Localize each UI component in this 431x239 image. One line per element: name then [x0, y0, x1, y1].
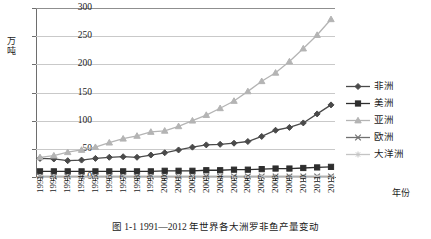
series-layer	[36, 8, 335, 178]
data-point-square	[79, 169, 84, 174]
legend-key-icon	[345, 78, 371, 95]
x-tick-label: 2000	[159, 182, 170, 193]
data-point-diamond	[176, 147, 182, 153]
legend-label: 欧洲	[374, 131, 394, 143]
data-point-square	[107, 169, 112, 174]
x-tick-2008: 2008	[270, 178, 281, 216]
data-point-diamond	[79, 157, 85, 163]
x-tick-2004: 2004	[215, 178, 226, 216]
x-tick-2003: 2003	[201, 178, 212, 216]
legend-item-大洋洲: 大洋洲	[345, 146, 431, 163]
x-tick-label: 2006	[242, 182, 253, 193]
data-point-triangle	[217, 105, 223, 111]
x-tick-1996: 1996	[104, 178, 115, 216]
x-tick-label: 1998	[132, 182, 143, 193]
data-point-square	[231, 167, 236, 172]
data-point-square	[315, 165, 320, 170]
legend-key-icon	[345, 129, 371, 146]
x-tick-label: 2002	[187, 182, 198, 193]
x-tick-1995: 1995	[90, 178, 101, 216]
x-tick-1999: 1999	[145, 178, 156, 216]
x-tick-label: 1992	[48, 182, 59, 193]
legend-label: 亚洲	[374, 114, 394, 126]
x-tick-1994: 1994	[76, 178, 87, 216]
data-point-square	[218, 168, 223, 173]
data-point-triangle	[328, 16, 334, 22]
data-point-diamond	[355, 84, 361, 90]
legend-key-icon	[345, 95, 371, 112]
x-tick-2011: 2011	[312, 178, 323, 216]
legend-item-美洲: 美洲	[345, 95, 431, 112]
data-point-star	[355, 152, 361, 158]
data-point-diamond	[231, 140, 237, 146]
legend-item-非洲: 非洲	[345, 78, 431, 95]
data-point-diamond	[65, 158, 71, 164]
legend-label: 美洲	[374, 97, 394, 109]
series-line	[40, 19, 331, 157]
x-tick-label: 1999	[145, 182, 156, 193]
x-tick-label: 2005	[229, 182, 240, 193]
legend-label: 非洲	[374, 80, 394, 92]
data-point-square	[204, 168, 209, 173]
x-tick-1993: 1993	[62, 178, 73, 216]
data-point-square	[37, 169, 42, 174]
data-point-square	[355, 101, 360, 106]
x-tick-2002: 2002	[187, 178, 198, 216]
data-point-diamond	[162, 150, 168, 156]
data-point-square	[51, 169, 56, 174]
legend-label: 大洋洲	[374, 148, 404, 160]
legend-item-欧洲: 欧洲	[345, 129, 431, 146]
data-point-square	[176, 168, 181, 173]
data-point-diamond	[245, 139, 251, 145]
x-tick-label: 2007	[256, 182, 267, 193]
data-point-square	[259, 167, 264, 172]
figure-tilapia-production: 万 吨 050100150200250300 19911992199319941…	[0, 0, 431, 239]
x-tick-label: 1997	[118, 182, 129, 193]
x-tick-label: 1993	[62, 182, 73, 193]
data-point-diamond	[273, 127, 279, 133]
x-tick-label: 2012	[326, 182, 337, 193]
data-point-diamond	[134, 154, 140, 160]
x-tick-1991: 1991	[35, 178, 46, 216]
x-tick-label: 2010	[298, 182, 309, 193]
data-point-diamond	[148, 152, 154, 158]
y-axis-title: 万 吨	[4, 36, 18, 56]
chart-legend: 非洲美洲亚洲欧洲大洋洲	[345, 78, 431, 163]
data-point-diamond	[259, 133, 265, 139]
figure-caption: 图 1-1 1991—2012 年世界各大洲罗非鱼产量变动	[0, 221, 431, 233]
data-point-square	[121, 169, 126, 174]
data-point-diamond	[203, 142, 209, 148]
x-tick-label: 2003	[201, 182, 212, 193]
data-point-square	[328, 164, 333, 169]
x-tick-label: 2009	[284, 182, 295, 193]
x-tick-2001: 2001	[173, 178, 184, 216]
series-2	[37, 16, 334, 160]
legend-key-icon	[345, 146, 371, 163]
x-tick-label: 1995	[90, 182, 101, 193]
data-point-square	[134, 169, 139, 174]
x-tick-2012: 2012	[326, 178, 337, 216]
x-tick-1992: 1992	[48, 178, 59, 216]
x-tick-label: 2001	[173, 182, 184, 193]
series-0	[37, 102, 334, 164]
legend-item-亚洲: 亚洲	[345, 112, 431, 129]
data-point-diamond	[92, 155, 98, 161]
y-axis-title-char-1: 万	[4, 36, 18, 46]
data-point-square	[148, 169, 153, 174]
data-point-square	[190, 168, 195, 173]
x-tick-label: 1991	[35, 182, 46, 193]
x-axis-tick-labels: 1991199219931994199519961997199819992000…	[36, 178, 336, 218]
x-tick-label: 2004	[215, 182, 226, 193]
series-1	[37, 164, 333, 174]
data-point-triangle	[259, 78, 265, 84]
data-point-diamond	[217, 141, 223, 147]
data-point-square	[162, 168, 167, 173]
x-tick-2009: 2009	[284, 178, 295, 216]
x-tick-1997: 1997	[118, 178, 129, 216]
data-point-square	[287, 166, 292, 171]
y-axis-title-char-2: 吨	[4, 46, 18, 56]
data-point-diamond	[106, 154, 112, 160]
x-tick-1998: 1998	[132, 178, 143, 216]
x-tick-label: 1996	[104, 182, 115, 193]
x-tick-2005: 2005	[229, 178, 240, 216]
